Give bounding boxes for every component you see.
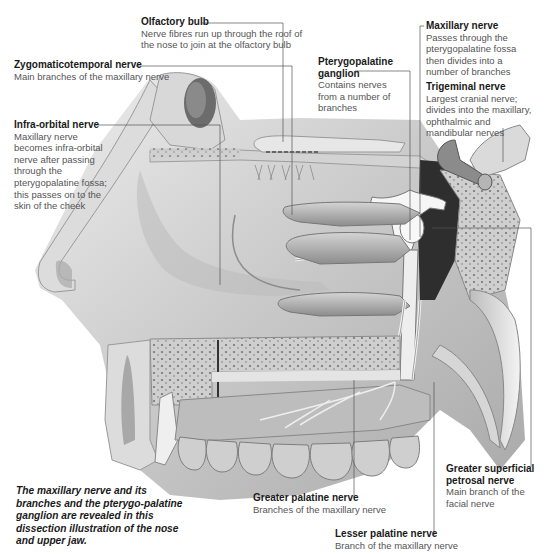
label-desc: from a number of (318, 91, 393, 103)
label-desc: ophthalmic and (426, 116, 531, 128)
label-desc: this passes on to the (14, 189, 107, 201)
label-olfactory-bulb: Olfactory bulb Nerve fibres run up throu… (141, 16, 302, 51)
label-desc: pterygopalatine fossa (426, 43, 516, 55)
label-title: ganglion (318, 68, 393, 80)
label-greater-superficial-petrosal-nerve: Greater superficial petrosal nerve Main … (446, 463, 534, 509)
label-title: Greater superficial (446, 463, 534, 475)
label-desc: number of branches (426, 66, 516, 78)
label-infra-orbital-nerve: Infra-orbital nerve Maxillary nerve beco… (14, 119, 107, 212)
label-desc: pterygopalatine fossa; (14, 177, 107, 189)
label-pterygopalatine-ganglion: Pterygopalatine ganglion Contains nerves… (318, 56, 393, 114)
label-title: Maxillary nerve (426, 20, 516, 32)
label-desc: Main branches of the maxillary nerve (14, 71, 169, 83)
label-desc: Main branch of the (446, 486, 534, 498)
label-desc: Passes through the (426, 32, 516, 44)
label-zygomaticotemporal-nerve: Zygomaticotemporal nerve Main branches o… (14, 59, 169, 82)
label-title: Pterygopalatine (318, 56, 393, 68)
label-desc: divides into the maxillary, (426, 104, 531, 116)
label-desc: skin of the cheek (14, 200, 107, 212)
label-title: petrosal nerve (446, 475, 534, 487)
label-greater-palatine-nerve: Greater palatine nerve Branches of the m… (253, 492, 386, 515)
label-title: Zygomaticotemporal nerve (14, 59, 169, 71)
label-title: Olfactory bulb (141, 16, 302, 28)
sphenoid-sinus (418, 160, 520, 300)
label-title: Greater palatine nerve (253, 492, 386, 504)
label-lesser-palatine-nerve: Lesser palatine nerve Branch of the maxi… (335, 528, 458, 551)
label-desc: Nerve fibres run up through the roof of (141, 28, 302, 40)
label-title: Trigeminal nerve (426, 81, 531, 93)
label-trigeminal-nerve: Trigeminal nerve Largest cranial nerve; … (426, 81, 531, 139)
label-desc: then divides into a (426, 55, 516, 67)
label-desc: Largest cranial nerve; (426, 93, 531, 105)
label-desc: facial nerve (446, 498, 534, 510)
label-desc: mandibular nerves (426, 127, 531, 139)
label-desc: Branches of the maxillary nerve (253, 504, 386, 516)
label-desc: the nose to join at the olfactory bulb (141, 39, 302, 51)
label-desc: through the (14, 165, 107, 177)
label-maxillary-nerve: Maxillary nerve Passes through the ptery… (426, 20, 516, 78)
label-desc: Maxillary nerve (14, 131, 107, 143)
figure-caption: The maxillary nerve and its branches and… (16, 485, 191, 548)
label-desc: branches (318, 102, 393, 114)
label-desc: Contains nerves (318, 79, 393, 91)
label-desc: becomes infra-orbital (14, 142, 107, 154)
label-title: Infra-orbital nerve (14, 119, 107, 131)
label-desc: Branch of the maxillary nerve (335, 540, 458, 552)
label-desc: nerve after passing (14, 154, 107, 166)
label-title: Lesser palatine nerve (335, 528, 458, 540)
